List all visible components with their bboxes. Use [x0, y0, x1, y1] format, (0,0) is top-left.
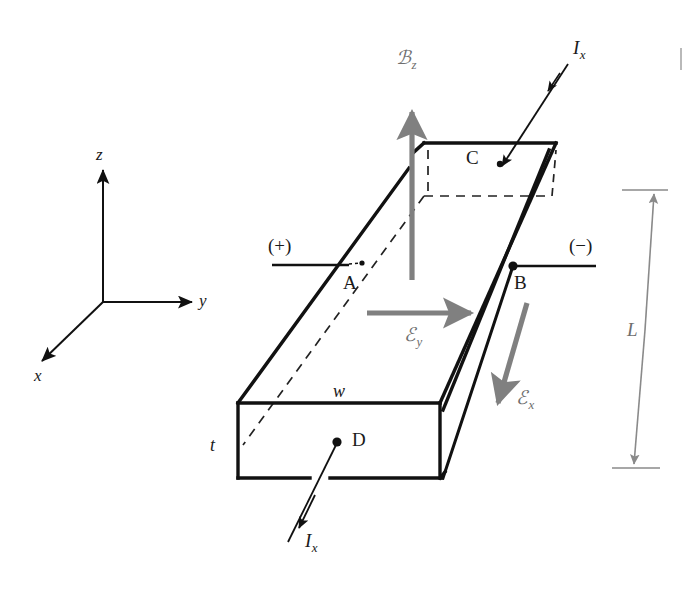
figure-canvas: z y x (+) (−) A B C D ℬz ℰy ℰx Ix Ix w t…	[0, 0, 693, 591]
efield-x-label: ℰx	[516, 388, 534, 411]
edge-top-left-hook	[414, 143, 424, 152]
terminal-label-positive: (+)	[268, 236, 291, 255]
dimension-arrow-up	[645, 194, 654, 330]
coordinate-axes	[42, 170, 192, 361]
point-marker-a	[359, 260, 364, 265]
point-label-b: B	[514, 273, 527, 292]
magnetic-field-subscript: z	[411, 57, 417, 72]
axis-x	[42, 302, 103, 361]
magnetic-field-symbol: ℬ	[396, 46, 411, 68]
efield-x-subscript: x	[528, 397, 534, 412]
dimension-length	[612, 190, 668, 468]
efield-x-symbol: ℰ	[516, 386, 528, 408]
dimension-arrow-down	[634, 330, 645, 464]
edge-top-left	[238, 168, 409, 403]
point-marker-c	[497, 161, 503, 167]
point-marker-d	[332, 437, 341, 446]
axis-label-y: y	[199, 292, 207, 309]
magnetic-field-label: ℬz	[396, 48, 417, 71]
edge-top-right-inner	[443, 150, 549, 410]
axis-label-z: z	[96, 146, 103, 163]
diagram-vector-layer	[0, 0, 693, 591]
width-label: w	[333, 382, 345, 400]
efield-y-subscript: y	[416, 334, 422, 349]
current-out-leader	[288, 443, 337, 542]
hidden-edge-diagonal	[243, 196, 424, 445]
bar-hidden-edges	[243, 150, 556, 445]
current-in-leader	[502, 64, 568, 166]
current-out-subscript: x	[311, 540, 317, 555]
efield-y-symbol: ℰ	[404, 323, 416, 345]
current-in-midarrow	[548, 73, 560, 91]
point-label-d: D	[352, 430, 366, 449]
point-label-c: C	[466, 148, 479, 167]
axis-label-x: x	[34, 367, 42, 384]
current-in-label: Ix	[573, 38, 586, 61]
current-out-arrowhead	[299, 495, 315, 528]
thickness-label: t	[210, 436, 215, 454]
point-marker-b	[508, 261, 517, 270]
length-label: L	[627, 320, 638, 339]
hidden-edge-back-right	[552, 150, 556, 196]
efield-y-label: ℰy	[404, 325, 422, 348]
current-in-subscript: x	[579, 47, 585, 62]
point-label-a: A	[343, 273, 357, 292]
terminal-label-negative: (−)	[569, 236, 592, 255]
current-out-label: Ix	[305, 531, 318, 554]
